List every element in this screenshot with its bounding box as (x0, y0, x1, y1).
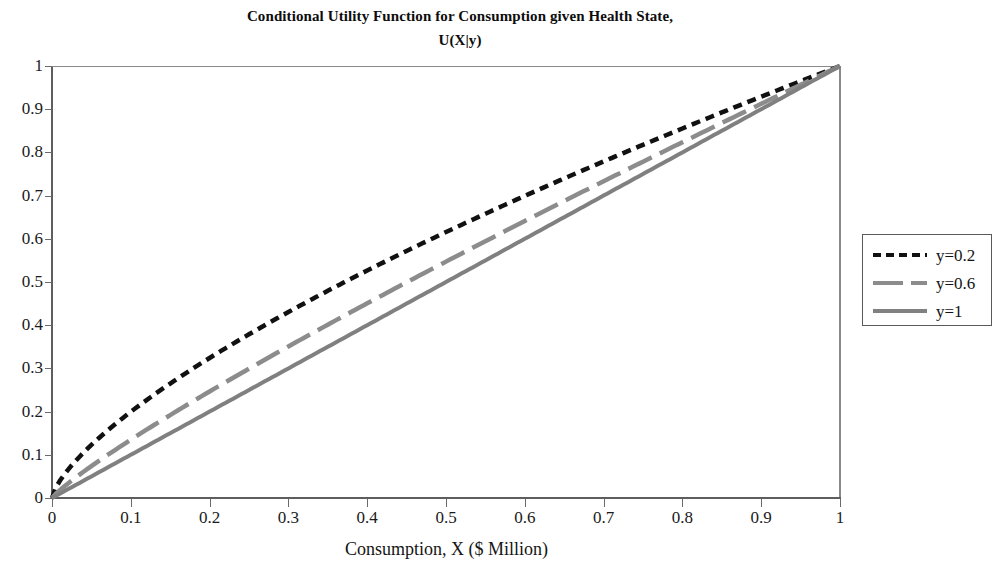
y-tick-label-text: 0.9 (3, 100, 43, 117)
y-tick-label: 0 (0, 489, 43, 506)
y-tick-label-text: 0.2 (3, 403, 43, 420)
y-tick-label: 0.9 (0, 100, 43, 117)
x-tick-mark (761, 499, 762, 507)
x-tick-label: 0.5 (416, 508, 476, 528)
x-tick-mark (288, 499, 289, 507)
x-tick-label: 0.6 (495, 508, 555, 528)
legend-label-0: y=0.2 (936, 247, 975, 264)
y-tick-label: 0.3 (0, 359, 43, 376)
legend-swatch-dashed-icon (872, 276, 928, 290)
chart-title-line-2: U(X|y) (180, 28, 740, 52)
y-tick-label: 0.6 (0, 230, 43, 247)
y-tick-mark (45, 325, 52, 326)
x-tick-label: 0.2 (180, 508, 240, 528)
legend-item-0[interactable]: y=0.2 (863, 241, 991, 269)
x-axis-title: Consumption, X ($ Million) (52, 538, 841, 560)
y-tick-mark (45, 239, 52, 240)
legend-swatch-dotted-icon (872, 248, 928, 262)
y-tick-label: 0.5 (0, 273, 43, 290)
y-tick-mark (45, 368, 52, 369)
x-tick-label: 1 (810, 508, 870, 528)
legend-item-2[interactable]: y=1 (863, 297, 991, 325)
y-tick-label: 0.4 (0, 316, 43, 333)
x-tick-mark (446, 499, 447, 507)
legend-swatch-solid-icon (872, 304, 928, 318)
x-tick-mark (604, 499, 605, 507)
x-tick-label: 0.7 (574, 508, 634, 528)
x-tick-label: 0.4 (337, 508, 397, 528)
y-tick-mark (45, 152, 52, 153)
y-tick-label-text: 0.4 (3, 316, 43, 333)
x-tick-mark (367, 499, 368, 507)
y-tick-label-text: 0.3 (3, 359, 43, 376)
y-tick-label-text: 0.1 (3, 446, 43, 463)
x-tick-mark (840, 499, 841, 507)
y-tick-label-text: 0.6 (3, 230, 43, 247)
y-tick-mark (45, 109, 52, 110)
x-tick-label: 0.9 (731, 508, 791, 528)
x-tick-mark (131, 499, 132, 507)
y-tick-label-text: 0.7 (3, 187, 43, 204)
y-tick-label-text: 1 (3, 57, 43, 74)
y-tick-mark (45, 66, 52, 67)
x-tick-label: 0 (22, 508, 82, 528)
y-tick-mark (45, 196, 52, 197)
legend-label-2: y=1 (936, 303, 963, 320)
x-tick-label: 0.8 (652, 508, 712, 528)
y-tick-label: 0.2 (0, 403, 43, 420)
series-line-y=1 (52, 66, 840, 498)
chart-title-line-1: Conditional Utility Function for Consump… (247, 8, 673, 24)
y-tick-label: 0.8 (0, 143, 43, 160)
y-tick-mark (45, 455, 52, 456)
y-tick-label: 0.7 (0, 187, 43, 204)
x-tick-mark (210, 499, 211, 507)
y-tick-label: 1 (0, 57, 43, 74)
legend: y=0.2 y=0.6 y=1 (862, 234, 992, 326)
x-tick-mark (682, 499, 683, 507)
y-tick-mark (45, 498, 52, 499)
chart-title: Conditional Utility Function for Consump… (180, 4, 740, 52)
y-tick-label-text: 0.8 (3, 143, 43, 160)
chart-figure: Conditional Utility Function for Consump… (0, 0, 1000, 570)
plot-area (52, 66, 840, 498)
x-tick-label: 0.3 (258, 508, 318, 528)
y-tick-label-text: 0 (3, 489, 43, 506)
y-tick-label: 0.1 (0, 446, 43, 463)
x-tick-label: 0.1 (101, 508, 161, 528)
legend-label-1: y=0.6 (936, 275, 975, 292)
x-tick-mark (52, 499, 53, 507)
series-curves (52, 66, 840, 498)
legend-item-1[interactable]: y=0.6 (863, 269, 991, 297)
y-tick-mark (45, 412, 52, 413)
y-tick-mark (45, 282, 52, 283)
x-tick-mark (525, 499, 526, 507)
y-tick-label-text: 0.5 (3, 273, 43, 290)
